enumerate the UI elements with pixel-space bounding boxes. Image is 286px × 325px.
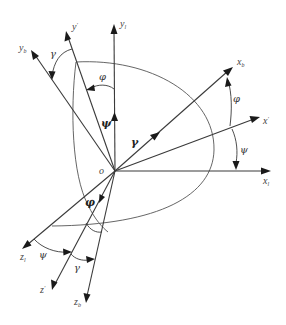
label-x-prime: x′ [262,115,269,126]
label-z-prime: z′ [39,284,46,295]
axis-y-b [31,50,115,171]
axis-z-l [22,171,115,249]
label-gamma-bottom: γ [74,262,80,273]
label-y-b: yb [18,42,26,54]
label-x-b: xb [236,56,244,68]
psi-rate-arrow [111,112,118,121]
angle-phi-top [86,85,114,92]
label-phi-bottom: φ [85,196,95,209]
label-psi-bottom: ψ [39,249,47,260]
axis-z-b [84,171,116,303]
axis-y-l [111,24,118,171]
axis-y-prime [65,31,116,171]
axis-z-prime [51,171,115,290]
angle-psi-right [232,129,240,170]
axis-x-l [115,168,271,175]
label-psi-center: ψ [101,117,112,130]
label-z-b: zb [73,296,81,308]
axis-x-b [115,67,233,171]
label-gamma-top: γ [50,48,56,59]
angle-phi-right [225,77,232,126]
label-psi-right: ψ [240,144,248,155]
label-origin: o [99,165,104,176]
label-gamma-center: γ [131,136,139,149]
coordinate-frame-diagram: yl y′ yb xb x′ xl zl z′ zb o γ φ ψ γ φ ψ… [0,0,286,325]
label-z-l: zl [19,251,26,263]
label-phi-top: φ [99,71,106,82]
label-y-l: yl [119,18,126,30]
label-phi-right: φ [233,93,240,104]
label-y-prime: y′ [71,21,78,32]
label-x-l: xl [262,175,269,187]
